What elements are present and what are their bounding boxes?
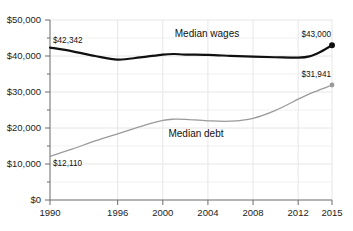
y-axis-tick-label: $10,000 [7,158,41,169]
wages-series-label: Median wages [175,28,239,39]
endpoint-marker-debt [330,83,335,88]
debt-series-label: Median debt [168,128,223,139]
y-axis-tick-label: $40,000 [7,50,41,61]
y-axis-tick-label: $50,000 [7,14,41,25]
x-axis-tick-label: 2012 [288,207,309,218]
y-axis-tick-label: $30,000 [7,86,41,97]
chart-container: $0$10,000$20,000$30,000$40,000$50,000 19… [0,0,353,231]
y-axis-tick-label: $20,000 [7,122,41,133]
x-axis-tick-label: 1990 [39,207,60,218]
x-axis-tick-label: 2000 [152,207,173,218]
x-axis-tick-label: 2004 [197,207,218,218]
y-axis-tick-label: $0 [30,194,41,205]
x-axis-tick-label: 2008 [242,207,263,218]
debt-start-value-label: $12,110 [53,159,82,168]
wages-start-value-label: $42,342 [53,36,83,45]
debt-end-value-label: $31,941 [301,70,331,79]
x-axis-tick-label: 2015 [321,207,342,218]
line-chart: $0$10,000$20,000$30,000$40,000$50,000 19… [0,0,353,231]
wages-end-value-label: $43,000 [301,30,331,39]
endpoint-marker-wages [329,42,335,48]
x-axis-tick-label: 1996 [107,207,128,218]
